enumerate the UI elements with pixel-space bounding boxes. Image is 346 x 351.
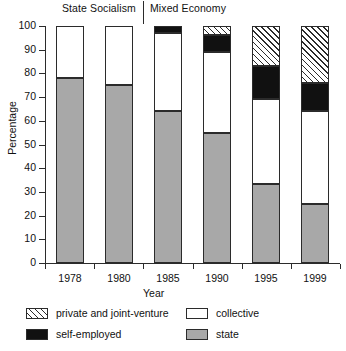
y-tick: [39, 121, 45, 122]
bar-1999: [301, 26, 329, 263]
x-tick: [143, 264, 144, 269]
x-tick: [242, 264, 243, 269]
y-tick: [39, 192, 45, 193]
x-tick: [291, 264, 292, 269]
bar-segment-collective-1999: [301, 111, 329, 203]
legend-swatch-self-employed-icon: [26, 329, 48, 340]
bar-segment-self-employed-1999: [301, 83, 329, 111]
bar-segment-state-1999: [301, 204, 329, 263]
period-label-state-socialism: State Socialism: [62, 2, 136, 14]
y-tick: [39, 50, 45, 51]
bar-1980: [105, 26, 133, 263]
bar-segment-collective-1980: [105, 26, 133, 85]
bar-segment-collective-1990: [203, 52, 231, 133]
legend-entry-private: private and joint-venture: [26, 307, 169, 319]
bar-segment-state-1995: [252, 184, 280, 263]
y-tick: [39, 73, 45, 74]
legend-entry-self-employed: self-employed: [26, 328, 121, 340]
y-tick: [39, 168, 45, 169]
x-tick-label: 1999: [285, 272, 345, 284]
legend-label-private: private and joint-venture: [56, 307, 169, 319]
bar-segment-state-1990: [203, 133, 231, 263]
y-tick-label: 90: [0, 43, 36, 55]
x-tick: [94, 264, 95, 269]
x-axis-title: Year: [143, 287, 164, 299]
bar-segment-private-and-joint-venture-1990: [203, 26, 231, 35]
y-tick-label: 10: [0, 232, 36, 244]
bar-1995: [252, 26, 280, 263]
bar-segment-state-1980: [105, 85, 133, 263]
legend-swatch-state-icon: [186, 329, 208, 340]
legend-entry-state: state: [186, 328, 239, 340]
y-tick: [39, 97, 45, 98]
legend-swatch-collective-icon: [186, 308, 208, 319]
x-tick: [193, 264, 194, 269]
period-divider: [143, 1, 144, 24]
bar-segment-self-employed-1985: [154, 26, 182, 33]
chart-legend: private and joint-venture collective sel…: [26, 307, 326, 349]
bar-segment-collective-1978: [56, 26, 84, 78]
bar-segment-collective-1985: [154, 33, 182, 111]
y-tick: [39, 26, 45, 27]
y-tick-label: 80: [0, 66, 36, 78]
stacked-bar-chart: State Socialism Mixed Economy 0102030405…: [0, 0, 346, 351]
bar-segment-self-employed-1995: [252, 66, 280, 99]
bar-1990: [203, 26, 231, 263]
x-tick: [45, 264, 46, 269]
bar-segment-state-1985: [154, 111, 182, 263]
bar-segment-state-1978: [56, 78, 84, 263]
y-tick-label: 0: [0, 256, 36, 268]
period-label-mixed-economy: Mixed Economy: [150, 2, 226, 14]
y-tick-label: 20: [0, 209, 36, 221]
y-tick: [39, 145, 45, 146]
x-tick: [340, 264, 341, 269]
legend-label-state: state: [216, 328, 239, 340]
bar-segment-self-employed-1990: [203, 35, 231, 52]
y-tick-label: 100: [0, 19, 36, 31]
y-axis-title: Percentage: [6, 83, 18, 173]
legend-label-self-employed: self-employed: [56, 328, 121, 340]
y-tick-label: 30: [0, 185, 36, 197]
legend-label-collective: collective: [216, 307, 259, 319]
bar-segment-collective-1995: [252, 99, 280, 183]
legend-swatch-private-icon: [26, 308, 48, 319]
bar-segment-private-and-joint-venture-1999: [301, 26, 329, 83]
bar-1985: [154, 26, 182, 263]
legend-entry-collective: collective: [186, 307, 259, 319]
bar-segment-private-and-joint-venture-1995: [252, 26, 280, 66]
bar-1978: [56, 26, 84, 263]
y-tick: [39, 216, 45, 217]
y-axis-line: [45, 26, 46, 264]
y-tick: [39, 239, 45, 240]
